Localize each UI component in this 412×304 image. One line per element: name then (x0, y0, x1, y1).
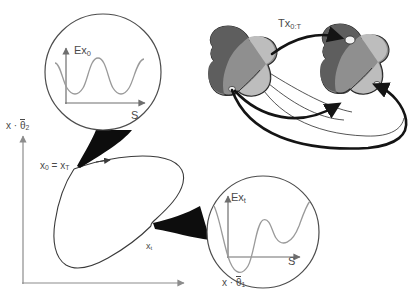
callout-start-cone (77, 130, 132, 168)
callout-t-cone (153, 206, 210, 240)
callout-t-x-axis-label: S (288, 255, 295, 267)
molecule-right-binding-pocket-top (345, 36, 355, 44)
y-axis-label: x · θ2 (6, 120, 29, 131)
x-axis-label: x · θ1 (222, 277, 245, 288)
trajectory-lower-arc (54, 169, 151, 268)
molecule-illustration (208, 24, 406, 149)
trajectory-label: Tx0:T (278, 17, 301, 31)
callout-t-y-axis-label: Ext (231, 191, 246, 205)
node-t-label: xt (146, 241, 152, 251)
molecule-left (208, 26, 277, 96)
projection-axes (22, 136, 184, 284)
callout-t-connector (153, 206, 210, 240)
trajectory-upper-arc (74, 156, 184, 226)
callout-t-lens (207, 176, 319, 288)
diagram-svg (0, 0, 412, 304)
figure-canvas: x · θ2 x · θ1 x0 = xT xt Ex0 S Ext S Tx0… (0, 0, 412, 304)
callout-start-connector (77, 130, 132, 168)
callout-start-x-axis-label: S (131, 109, 138, 121)
trajectory-loop (54, 156, 184, 268)
callout-start-lens (45, 14, 161, 130)
callout-start-y-axis-label: Ex0 (74, 44, 91, 58)
node-start-label: x0 = xT (40, 160, 69, 171)
